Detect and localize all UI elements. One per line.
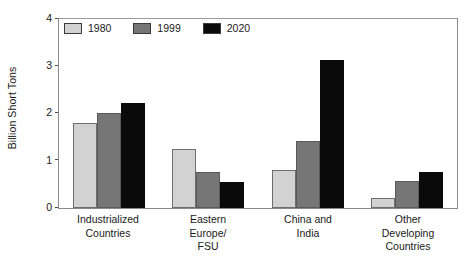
x-axis-label-line: Countries bbox=[358, 240, 458, 254]
x-axis-label-line: Developing bbox=[358, 227, 458, 241]
bar-group bbox=[358, 19, 458, 208]
bar-group bbox=[59, 19, 159, 208]
x-axis-label: OtherDevelopingCountries bbox=[358, 213, 458, 254]
x-axis-label: China andIndia bbox=[258, 213, 358, 254]
bar-1980-3[interactable] bbox=[371, 198, 395, 208]
bar-2020-1[interactable] bbox=[220, 182, 244, 208]
x-axis-labels: IndustrializedCountriesEasternEurope/FSU… bbox=[58, 213, 458, 254]
bar-groups bbox=[59, 19, 457, 208]
y-axis-title-text: Billion Short Tons bbox=[6, 67, 18, 150]
bar-1980-1[interactable] bbox=[172, 149, 196, 208]
x-axis-label-line: Countries bbox=[58, 227, 158, 241]
bar-1999-2[interactable] bbox=[296, 141, 320, 208]
x-axis-label-line: Other bbox=[358, 213, 458, 227]
y-axis-tick-label: 2 bbox=[46, 107, 55, 118]
legend-swatch-icon bbox=[203, 23, 221, 34]
y-axis-tick-label: 4 bbox=[46, 13, 55, 24]
bar-1999-0[interactable] bbox=[97, 113, 121, 208]
legend: 198019992020 bbox=[64, 23, 250, 34]
bar-2020-2[interactable] bbox=[320, 60, 344, 208]
legend-item-1999[interactable]: 1999 bbox=[133, 23, 180, 34]
legend-swatch-icon bbox=[64, 23, 82, 34]
bar-chart: Billion Short Tons 01234 198019992020 In… bbox=[0, 0, 466, 276]
legend-item-1980[interactable]: 1980 bbox=[64, 23, 111, 34]
bar-group bbox=[258, 19, 358, 208]
legend-label: 2020 bbox=[227, 23, 250, 34]
x-axis-label: EasternEurope/FSU bbox=[158, 213, 258, 254]
bar-group bbox=[159, 19, 259, 208]
y-axis: 01234 bbox=[22, 14, 60, 214]
bar-1980-2[interactable] bbox=[272, 170, 296, 208]
x-axis-label-line: India bbox=[258, 227, 358, 241]
x-axis-label-line: China and bbox=[258, 213, 358, 227]
bar-2020-0[interactable] bbox=[121, 103, 145, 208]
bar-1999-3[interactable] bbox=[395, 181, 419, 208]
x-axis-label: IndustrializedCountries bbox=[58, 213, 158, 254]
bar-1999-1[interactable] bbox=[196, 172, 220, 208]
legend-swatch-icon bbox=[133, 23, 151, 34]
x-axis-label-line: FSU bbox=[158, 240, 258, 254]
bar-1980-0[interactable] bbox=[73, 123, 97, 209]
legend-label: 1980 bbox=[88, 23, 111, 34]
x-axis-label-line: Europe/ bbox=[158, 227, 258, 241]
bar-2020-3[interactable] bbox=[419, 172, 443, 208]
y-axis-title: Billion Short Tons bbox=[2, 0, 22, 216]
plot-area: 198019992020 bbox=[58, 18, 458, 209]
legend-item-2020[interactable]: 2020 bbox=[203, 23, 250, 34]
x-axis-label-line: Industrialized bbox=[58, 213, 158, 227]
y-axis-tick-label: 3 bbox=[46, 60, 55, 71]
legend-label: 1999 bbox=[157, 23, 180, 34]
y-axis-tick-label: 1 bbox=[46, 155, 55, 166]
y-axis-tick-label: 0 bbox=[46, 202, 55, 213]
x-axis-label-line: Eastern bbox=[158, 213, 258, 227]
